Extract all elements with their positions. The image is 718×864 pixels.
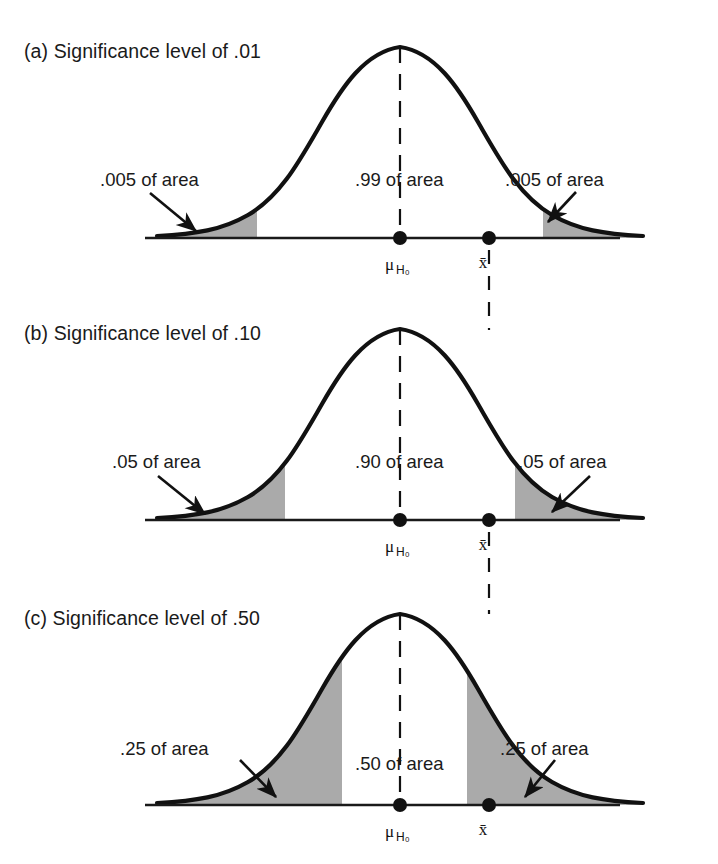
panel-b-mu-label: μ H₀	[385, 537, 410, 559]
panel-a-center-label: .99 of area	[355, 169, 444, 190]
panel-c-shaded-tails	[157, 600, 647, 810]
panel-b-mu-subscript: H₀	[396, 545, 410, 559]
panel-b-right-tail-label: .05 of area	[518, 451, 607, 472]
panel-b: (b) Significance level of .10 μ H₀ x̄ .0…	[24, 320, 643, 559]
panel-c: (c) Significance level of .50 μ H₀ x̄ .2…	[24, 600, 647, 844]
panel-c-mu-subscript: H₀	[396, 830, 410, 844]
panel-b-center-label: .90 of area	[355, 451, 444, 472]
significance-level-figure: (a) Significance level of .01 μ H₀ x̄ .0…	[0, 0, 718, 864]
panel-c-left-tail-label: .25 of area	[120, 738, 209, 759]
panel-a: (a) Significance level of .01 μ H₀ x̄ .0…	[24, 40, 643, 277]
panel-c-mu-symbol: μ	[385, 822, 394, 841]
panel-c-mu-label: μ H₀	[385, 822, 410, 844]
panel-c-mu-marker	[393, 798, 407, 812]
panel-c-xbar-label: x̄	[479, 820, 488, 839]
panel-c-xbar-marker	[482, 798, 496, 812]
panel-a-mu-subscript: H₀	[396, 263, 410, 277]
panel-a-xbar-label: x̄	[479, 253, 488, 272]
panel-a-mu-symbol: μ	[385, 255, 394, 274]
panel-b-right-tail-shade	[515, 320, 643, 525]
panel-a-mu-label: μ H₀	[385, 255, 410, 277]
panel-b-left-arrow	[158, 476, 205, 514]
panel-b-mu-marker	[393, 513, 407, 527]
panel-b-left-tail-label: .05 of area	[112, 451, 201, 472]
panel-c-center-label: .50 of area	[355, 753, 444, 774]
panel-c-title: (c) Significance level of .50	[24, 607, 260, 629]
panel-a-xbar-marker	[482, 231, 496, 245]
panel-a-title: (a) Significance level of .01	[24, 40, 261, 62]
panel-b-title: (b) Significance level of .10	[24, 322, 261, 344]
panel-c-right-tail-shade	[467, 600, 647, 810]
panel-a-mu-marker	[393, 231, 407, 245]
panel-a-left-arrow	[150, 193, 196, 231]
panel-b-mu-symbol: μ	[385, 537, 394, 556]
panel-a-right-arrow	[548, 192, 576, 222]
panel-b-left-tail-shade	[157, 320, 285, 525]
panel-a-right-tail-label: .005 of area	[505, 169, 604, 190]
panel-a-left-tail-label: .005 of area	[100, 169, 199, 190]
panel-c-right-tail-label: .25 of area	[500, 738, 589, 759]
panel-b-xbar-marker	[482, 513, 496, 527]
panel-b-xbar-label: x̄	[479, 535, 488, 554]
